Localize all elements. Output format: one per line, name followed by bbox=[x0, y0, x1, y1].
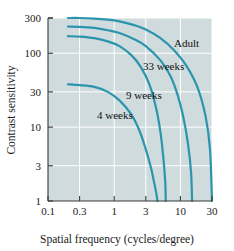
y-tick-label: 300 bbox=[25, 12, 42, 24]
x-tick-label: 10 bbox=[175, 205, 187, 217]
x-tick-label: 0.3 bbox=[73, 205, 87, 217]
x-tick-label: 1 bbox=[111, 205, 117, 217]
x-axis-title: Spatial frequency (cycles/degree) bbox=[40, 233, 194, 246]
y-tick-label: 30 bbox=[30, 86, 42, 98]
chart-figure: 300100301031 0.10.3131030 Adult33 weeks9… bbox=[0, 0, 234, 251]
x-tick-label: 0.1 bbox=[41, 205, 55, 217]
curve-label-adult: Adult bbox=[174, 37, 199, 49]
y-tick-label: 10 bbox=[30, 121, 42, 133]
y-tick-label: 100 bbox=[25, 47, 42, 59]
curve-label-9-weeks: 9 weeks bbox=[126, 89, 162, 101]
curve-label-33-weeks: 33 weeks bbox=[143, 60, 184, 72]
x-tick-label: 3 bbox=[143, 205, 149, 217]
x-tick-label: 30 bbox=[207, 205, 219, 217]
curve-label-4-weeks: 4 weeks bbox=[97, 109, 133, 121]
contrast-sensitivity-chart: 300100301031 0.10.3131030 Adult33 weeks9… bbox=[0, 0, 234, 251]
y-tick-label: 3 bbox=[36, 160, 42, 172]
y-axis-title: Contrast sensitivity bbox=[5, 65, 18, 154]
